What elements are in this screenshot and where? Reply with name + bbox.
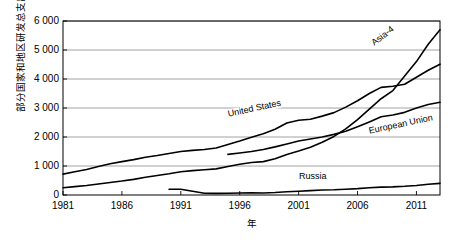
x-axis-tick-label: 1981	[41, 201, 85, 211]
x-axis-tick-label: 1991	[159, 201, 203, 211]
y-axis-tick-label: 2 000	[19, 132, 59, 142]
x-axis-tick-label: 2001	[277, 201, 321, 211]
y-axis-tick-label: 3 000	[19, 103, 59, 113]
y-axis-tick-label: 1 000	[19, 161, 59, 171]
x-axis-tick-label: 1996	[218, 201, 262, 211]
y-axis-tick-label: 5 000	[19, 45, 59, 55]
x-axis-tick-label: 2006	[336, 201, 380, 211]
y-axis-tick-label: 6 000	[19, 16, 59, 26]
series-label-russia: Russia	[298, 172, 328, 181]
chart-container: 部分国家和地区研发总支出/亿美元 01 0002 0003 0004 0005 …	[0, 0, 460, 245]
series-line-russia	[169, 183, 440, 193]
x-axis-tick-label: 1986	[100, 201, 144, 211]
series-line-united-states	[63, 64, 440, 174]
y-axis-tick-label: 0	[19, 190, 59, 200]
y-axis-tick-label: 4 000	[19, 74, 59, 84]
x-axis-tick-label: 2011	[394, 201, 438, 211]
x-axis-title: 年	[222, 216, 282, 230]
